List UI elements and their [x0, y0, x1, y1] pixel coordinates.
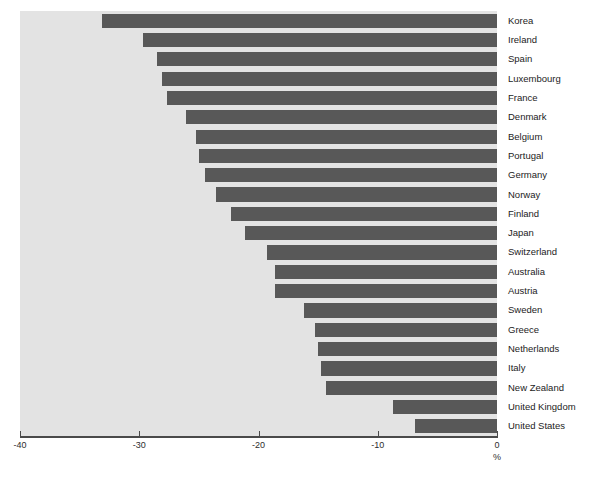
bar-row — [20, 320, 497, 339]
x-tick-label: 0 — [494, 440, 499, 451]
bar — [415, 419, 497, 433]
category-label: Japan — [508, 227, 534, 239]
bar — [326, 381, 497, 395]
bar — [393, 400, 497, 414]
x-tick — [259, 431, 260, 437]
bar — [275, 284, 497, 298]
bar-row — [20, 146, 497, 165]
category-label: Belgium — [508, 131, 542, 143]
bar — [315, 323, 497, 337]
bar-row — [20, 301, 497, 320]
bar-row — [20, 378, 497, 397]
bar-row — [20, 11, 497, 30]
bar-chart: -40-30-20-100 KoreaIrelandSpainLuxembour… — [0, 0, 590, 491]
category-label: United States — [508, 420, 565, 432]
bar-row — [20, 281, 497, 300]
bar-row — [20, 108, 497, 127]
bar — [167, 91, 497, 105]
category-label: Austria — [508, 285, 538, 297]
category-label: Greece — [508, 324, 539, 336]
bar — [196, 130, 497, 144]
bar — [318, 342, 497, 356]
bar — [143, 33, 497, 47]
bar-row — [20, 50, 497, 69]
bar — [186, 110, 497, 124]
category-label: Luxembourg — [508, 73, 561, 85]
x-tick — [20, 431, 21, 437]
bar-row — [20, 166, 497, 185]
category-label: Ireland — [508, 34, 537, 46]
bar-row — [20, 30, 497, 49]
x-tick — [378, 431, 379, 437]
x-axis-title: % — [493, 452, 501, 463]
bar-row — [20, 339, 497, 358]
category-label: Netherlands — [508, 343, 559, 355]
bar — [231, 207, 497, 221]
category-label: Spain — [508, 53, 532, 65]
category-label: Australia — [508, 266, 545, 278]
x-tick — [139, 431, 140, 437]
bar — [205, 168, 497, 182]
bar-row — [20, 127, 497, 146]
bar — [162, 72, 497, 86]
bar — [157, 52, 497, 66]
x-tick-label: -30 — [133, 440, 146, 451]
bar-row — [20, 88, 497, 107]
bar-row — [20, 397, 497, 416]
category-label: United Kingdom — [508, 401, 576, 413]
category-label: Korea — [508, 15, 533, 27]
category-label: Denmark — [508, 111, 547, 123]
category-label: Switzerland — [508, 246, 557, 258]
category-label: Sweden — [508, 304, 542, 316]
category-label: Norway — [508, 189, 540, 201]
bar — [275, 265, 497, 279]
category-label: Portugal — [508, 150, 543, 162]
bar-row — [20, 359, 497, 378]
x-tick-label: -40 — [13, 440, 26, 451]
bar — [321, 361, 497, 375]
category-label: Finland — [508, 208, 539, 220]
bar — [199, 149, 497, 163]
x-tick-label: -10 — [371, 440, 384, 451]
category-label: France — [508, 92, 538, 104]
category-label: New Zealand — [508, 382, 564, 394]
x-tick — [497, 431, 498, 437]
bar — [216, 187, 497, 201]
bar — [267, 245, 497, 259]
category-label: Italy — [508, 362, 525, 374]
bar — [102, 14, 497, 28]
bar-row — [20, 69, 497, 88]
bar — [304, 303, 497, 317]
plot-area — [20, 11, 497, 436]
bar-row — [20, 204, 497, 223]
x-tick-label: -20 — [252, 440, 265, 451]
bar-row — [20, 185, 497, 204]
bar-row — [20, 224, 497, 243]
bar — [245, 226, 497, 240]
bar-row — [20, 262, 497, 281]
bar-row — [20, 243, 497, 262]
category-label: Germany — [508, 169, 547, 181]
